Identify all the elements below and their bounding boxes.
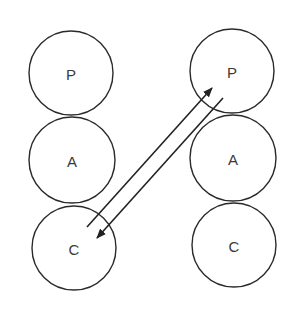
right-a-label: A [228,151,238,168]
left-a-label: A [67,153,77,170]
right-node-p: P [190,29,274,113]
left-node-c: C [32,206,116,290]
left-column: P A C [29,31,116,290]
right-column: P A C [190,29,276,287]
right-c-label: C [229,238,240,255]
right-node-a: A [190,115,276,201]
left-p-label: P [66,66,76,83]
right-p-label: P [227,64,237,81]
left-node-p: P [29,31,113,115]
left-node-a: A [29,117,115,203]
right-node-c: C [192,203,276,287]
diagram-canvas: P A C P A C [0,0,291,309]
left-c-label: C [69,241,80,258]
